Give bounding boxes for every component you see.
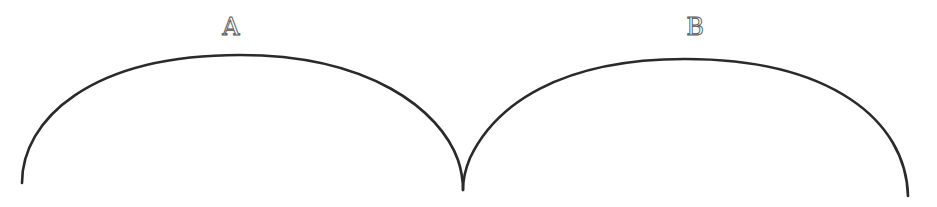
label-a: A [221,13,240,41]
arcs-diagram: A B [0,0,937,207]
label-b: B [686,13,704,41]
arc-b [463,59,908,196]
arc-a [22,55,463,190]
